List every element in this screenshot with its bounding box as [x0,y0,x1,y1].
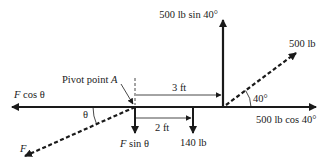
force-diagram: 500 lb sin 40° 500 lb 500 lb cos 40° Piv… [0,0,331,168]
pivot-pointer [121,84,133,104]
weight-label: 140 lb [180,137,207,148]
theta-label: θ [83,109,88,120]
pivot-label: Pivot point A [62,74,118,85]
angle-40-arc [246,91,251,108]
distance-2ft-label: 2 ft [155,122,169,133]
theta-arc [93,107,97,125]
vertical-force-label: 500 lb sin 40° [159,9,218,20]
f-label: F [19,143,27,154]
f-cos-theta-label: F cos θ [13,89,45,100]
f-force-arrow [25,107,135,156]
distance-3ft-label: 3 ft [172,82,186,93]
angle-40-label: 40° [253,93,268,104]
f-sin-theta-label: F sin θ [119,138,149,149]
horizontal-component-label: 500 lb cos 40° [256,114,317,125]
applied-force-label: 500 lb [289,38,316,49]
